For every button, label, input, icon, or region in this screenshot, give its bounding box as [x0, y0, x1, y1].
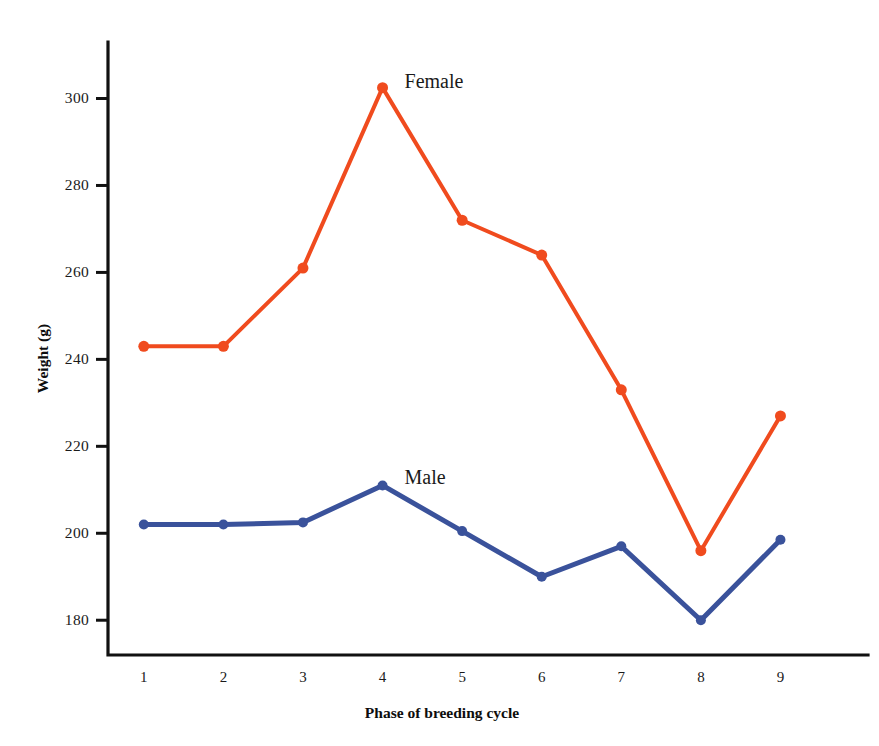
x-axis-title: Phase of breeding cycle	[365, 704, 519, 721]
line-chart: 300280260240220200180 123456789 FemaleMa…	[0, 0, 879, 746]
chart-axes	[96, 42, 868, 655]
series-line-female	[144, 88, 781, 551]
y-axis-tick-label: 280	[65, 176, 89, 193]
data-point	[378, 480, 388, 490]
y-axis-tick-label: 300	[65, 89, 89, 106]
series-male	[139, 480, 786, 625]
data-point	[696, 615, 706, 625]
x-axis-tick-label: 7	[618, 669, 626, 685]
series-female	[138, 82, 786, 556]
y-axis-tick-labels: 300280260240220200180	[65, 89, 89, 628]
data-point	[537, 572, 547, 582]
x-axis-tick-label: 5	[458, 669, 466, 685]
x-axis-tick-label: 6	[538, 669, 546, 685]
data-point	[457, 526, 467, 536]
data-point	[218, 520, 228, 530]
x-axis-tick-label: 2	[220, 669, 228, 685]
series-annotation-labels: FemaleMale	[405, 70, 464, 488]
data-point	[297, 263, 308, 274]
data-point	[616, 384, 627, 395]
data-point	[775, 410, 786, 421]
data-point	[377, 82, 388, 93]
y-axis-tick-label: 220	[65, 437, 89, 454]
x-axis-tick-label: 9	[777, 669, 785, 685]
y-axis-tick-label: 180	[65, 611, 89, 628]
data-point	[536, 250, 547, 261]
data-point	[616, 541, 626, 551]
y-axis-tick-label: 260	[65, 263, 89, 280]
data-point	[775, 535, 785, 545]
y-axis-tick-label: 240	[65, 350, 89, 367]
data-point	[298, 517, 308, 527]
data-point	[218, 341, 229, 352]
series-label-female: Female	[405, 70, 464, 92]
data-series-layer	[138, 82, 786, 625]
data-point	[139, 520, 149, 530]
y-axis-title: Weight (g)	[34, 324, 52, 393]
data-point	[695, 545, 706, 556]
y-axis-tick-label: 200	[65, 524, 89, 541]
x-axis-tick-label: 1	[140, 669, 148, 685]
x-axis-tick-label: 4	[379, 669, 387, 685]
x-axis-tick-label: 8	[697, 669, 705, 685]
series-label-male: Male	[405, 466, 446, 488]
y-axis-ticks	[96, 99, 108, 621]
x-axis-tick-labels: 123456789	[140, 669, 784, 685]
data-point	[457, 215, 468, 226]
x-axis-tick-label: 3	[299, 669, 307, 685]
chart-svg: 300280260240220200180 123456789 FemaleMa…	[0, 0, 879, 746]
series-line-male	[144, 485, 781, 620]
data-point	[138, 341, 149, 352]
